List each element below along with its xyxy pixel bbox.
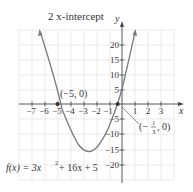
- x-tick-label: −7: [26, 106, 36, 116]
- x-tick-label: 3: [159, 106, 164, 116]
- y-axis-label: y: [114, 13, 120, 24]
- y-tick-label: −15: [105, 145, 120, 155]
- svg-text:2: 2: [55, 159, 58, 166]
- intercept-label-left: (−5, 0): [60, 88, 87, 100]
- y-tick-label: 20: [110, 40, 120, 50]
- parabola-chart: −7 −6 −5 −4 −3 −2 −1 1 2 3 20 15 10 5 −5…: [0, 0, 193, 192]
- x-tick-label: −4: [65, 106, 75, 116]
- svg-text:1: 1: [152, 119, 155, 126]
- x-tick-label: −5: [52, 106, 62, 116]
- x-tick-label: −3: [78, 106, 88, 116]
- intercept-label-right: (− 1 3 , 0): [139, 119, 170, 135]
- x-tick-label: 2: [146, 106, 151, 116]
- svg-text:, 0): , 0): [157, 121, 170, 133]
- x-tick-labels: −7 −6 −5 −4 −3 −2 −1 1 2 3: [26, 106, 164, 116]
- svg-text:(−: (−: [139, 121, 148, 133]
- x-axis-label: x: [178, 105, 184, 116]
- chart-title: 2 x-intercept: [48, 10, 104, 22]
- x-tick-label: −2: [91, 106, 101, 116]
- intercept-point-left: [56, 102, 60, 106]
- x-tick-label: −6: [39, 106, 49, 116]
- y-tick-label: 10: [110, 70, 120, 80]
- svg-text:3: 3: [152, 128, 155, 135]
- svg-text:f(x) = 3x: f(x) = 3x: [6, 162, 42, 174]
- y-tick-label: 5: [115, 85, 120, 95]
- y-tick-label: 15: [110, 55, 120, 65]
- grid: [19, 30, 174, 180]
- y-axis-arrow-icon: [120, 21, 124, 27]
- y-tick-label: −20: [105, 160, 120, 170]
- function-label: f(x) = 3x 2 + 16x + 5: [6, 159, 98, 174]
- parabola-curve: [40, 32, 135, 152]
- intercept-point-right: [116, 102, 120, 106]
- x-tick-label: 1: [133, 106, 138, 116]
- svg-text:+ 16x + 5: + 16x + 5: [59, 162, 98, 173]
